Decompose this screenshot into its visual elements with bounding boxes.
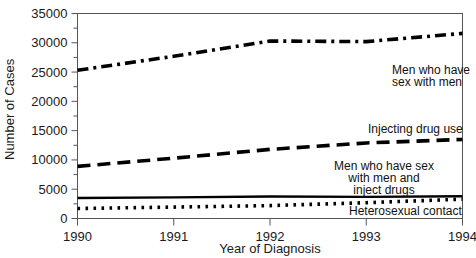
series-annotation: Men who havesex with men — [392, 63, 470, 89]
y-tick-label: 25000 — [31, 65, 67, 80]
x-axis-title: Year of Diagnosis — [219, 241, 321, 256]
series-annotation-line: Heterosexual contact — [349, 204, 462, 218]
y-tick-label: 35000 — [31, 6, 67, 21]
y-tick-label: 0 — [60, 211, 67, 226]
series-annotation-line: sex with men — [392, 75, 462, 89]
series-annotation: Heterosexual contact — [349, 204, 462, 218]
series-annotation: Injecting drug use — [368, 122, 463, 136]
y-tick-label: 20000 — [31, 94, 67, 109]
y-axis-title: Number of Cases — [2, 58, 17, 160]
x-tick-label: 1991 — [159, 229, 188, 244]
series-annotation-line: inject drugs — [353, 183, 414, 197]
y-tick-label: 5000 — [39, 182, 68, 197]
x-tick-label: 1994 — [448, 229, 476, 244]
series-annotation-line: Injecting drug use — [368, 122, 463, 136]
y-tick-label: 30000 — [31, 35, 67, 50]
x-tick-label: 1990 — [63, 229, 92, 244]
line-chart: 05000100001500020000250003000035000 1990… — [0, 0, 476, 258]
x-tick-label: 1993 — [352, 229, 381, 244]
y-tick-label: 15000 — [31, 123, 67, 138]
y-tick-label: 10000 — [31, 152, 67, 167]
chart-container: 05000100001500020000250003000035000 1990… — [0, 0, 476, 258]
